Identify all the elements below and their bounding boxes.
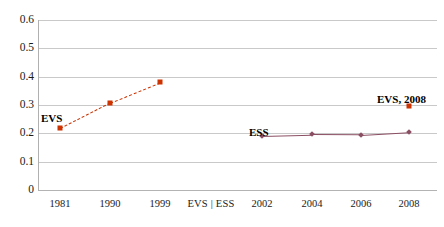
x-tick-label-2006: 2006: [351, 199, 372, 210]
gridline: [38, 20, 437, 21]
y-axis-line: [38, 20, 39, 191]
y-tick-label: 0.4: [0, 71, 34, 83]
x-tick-label-1999: 1999: [150, 199, 171, 210]
y-tick-label: 0.6: [0, 14, 34, 26]
x-tick-label-divider: EVS | ESS: [187, 199, 234, 210]
annotation-evs: EVS: [41, 113, 62, 124]
y-tick-label: 0.5: [0, 42, 34, 54]
data-point-marker: [108, 100, 113, 105]
y-tick-label: 0.3: [0, 99, 34, 111]
x-tick-label-2004: 2004: [302, 199, 323, 210]
gridline: [38, 190, 437, 191]
y-tick-label: 0.1: [0, 156, 34, 168]
y-tick-label: 0.2: [0, 127, 34, 139]
gridline: [38, 162, 437, 163]
plot-area: [38, 20, 437, 190]
x-tick-label-2008: 2008: [399, 199, 420, 210]
y-axis-tick-labels: 0.6 0.5 0.4 0.3 0.2 0.1 0: [0, 0, 34, 227]
gridline: [38, 48, 437, 49]
annotation-evs-2008: EVS, 2008: [377, 94, 426, 105]
y-tick-label: 0: [0, 184, 34, 196]
line-chart: 0.6 0.5 0.4 0.3 0.2 0.1 0 1981 1990 1999…: [0, 0, 444, 227]
x-tick-label-2002: 2002: [252, 199, 273, 210]
x-tick-label-1990: 1990: [100, 199, 121, 210]
data-point-marker: [158, 80, 163, 85]
gridline: [38, 105, 437, 106]
annotation-ess: ESS: [249, 127, 269, 138]
gridline: [38, 77, 437, 78]
x-tick-label-1981: 1981: [50, 199, 71, 210]
data-point-marker: [58, 126, 63, 131]
